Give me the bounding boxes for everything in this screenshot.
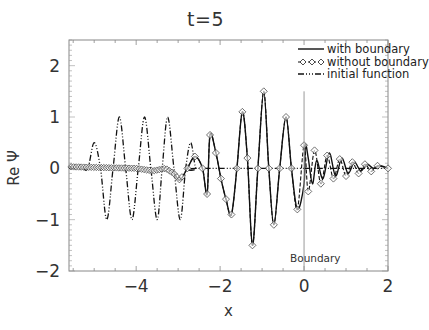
x-tick-label: 0 (299, 276, 310, 296)
diamond-marker (204, 191, 211, 198)
legend: with boundary without boundary initial f… (298, 43, 429, 81)
x-axis-label: x (224, 302, 233, 320)
diamond-marker (336, 156, 343, 163)
boundary-annotation: Boundary (290, 252, 341, 264)
diamond-marker (222, 196, 229, 203)
diamond-marker (244, 155, 251, 162)
x-tick-label: −2 (208, 276, 233, 296)
chart-title: t=5 (0, 8, 411, 30)
y-tick-label: 0 (20, 158, 60, 178)
diamond-marker (305, 188, 312, 195)
diamond-marker (265, 165, 272, 172)
diamond-marker (283, 114, 290, 121)
diamond-marker (254, 165, 261, 172)
diamond-marker (317, 180, 324, 187)
diamond-marker (239, 108, 246, 115)
y-tick-label: 1 (20, 107, 60, 127)
diamond-marker (349, 159, 356, 166)
dashed-diamond-line-icon (298, 57, 324, 67)
diamond-marker (270, 221, 277, 228)
diamond-marker (385, 165, 392, 172)
x-tick-label: 2 (383, 276, 394, 296)
diamond-marker (276, 165, 283, 172)
diamond-marker (212, 149, 219, 156)
diamond-marker (288, 165, 295, 172)
diamond-marker (233, 165, 240, 172)
legend-label: with boundary (327, 43, 410, 56)
y-tick-label: −2 (20, 261, 60, 281)
diamond-marker (249, 242, 256, 249)
y-tick-label: −1 (20, 210, 60, 230)
x-tick-label: −4 (124, 276, 149, 296)
diamond-marker (260, 88, 267, 95)
diamond-marker (217, 175, 224, 182)
legend-label: initial function (327, 68, 409, 81)
diamond-marker (311, 147, 318, 154)
solid-line-icon (298, 44, 324, 54)
legend-item-initial-function: initial function (298, 68, 429, 81)
dash-dot-line-icon (298, 69, 324, 79)
legend-item-with-boundary: with boundary (298, 43, 429, 56)
diamond-marker (199, 165, 206, 172)
y-tick-label: 2 (20, 56, 60, 76)
